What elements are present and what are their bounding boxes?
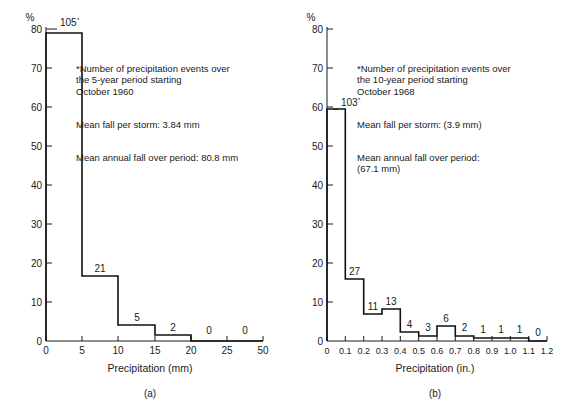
y-tick-label-40: 40 — [31, 180, 43, 191]
y-unit-label-b: % — [307, 12, 316, 23]
x-tick-label-b-5: 0.5 — [412, 346, 425, 356]
x-tick-label-b-7: 0.7 — [449, 346, 462, 356]
x-tick-label-b-12: 1.2 — [541, 346, 554, 356]
y-tick-label-b-50: 50 — [312, 141, 324, 152]
x-ticks-a: 0 5 10 15 20 25 50 — [43, 336, 269, 356]
y-tick-label-30: 30 — [31, 219, 43, 230]
y-tick-label-b-40: 40 — [312, 180, 324, 191]
annotation-mean-storm-a: Mean fall per storm: 3.84 mm — [76, 119, 281, 131]
annotation-mean-annual-a: Mean annual fall over period: 80.8 mm — [76, 152, 281, 164]
panel-label-a: (a) — [144, 388, 156, 399]
annotation-mean-storm-b: Mean fall per storm: (3.9 mm) — [357, 119, 565, 131]
x-tick-label-b-6: 0.6 — [431, 346, 444, 356]
annotation-note-a: *Number of precipitation events over the… — [76, 63, 281, 98]
x-tick-label-b-1: 0.1 — [339, 346, 352, 356]
x-axis-title-b: Precipitation (in.) — [396, 362, 475, 374]
bar-value-label-b-2: 11 — [368, 301, 379, 312]
y-tick-label-10: 10 — [31, 297, 43, 308]
bar-value-label-a-3: 2 — [170, 322, 176, 333]
bar-value-label-b-8: 1 — [480, 324, 486, 335]
bar-value-label-b-7: 2 — [462, 322, 468, 333]
bar-value-label-b-4: 4 — [407, 319, 413, 330]
x-tick-label-a-5: 25 — [221, 345, 233, 356]
bar-value-label-a-4: 0 — [206, 325, 212, 336]
x-tick-label-b-2: 0.2 — [357, 346, 370, 356]
y-tick-label-60: 60 — [31, 102, 43, 113]
bar-value-label-b-9: 1 — [498, 324, 504, 335]
x-tick-label-a-6: 50 — [257, 345, 269, 356]
x-ticks-b: 0 0.1 0.2 0.3 0.4 0.5 0.6 0.7 0.8 0.9 1.… — [324, 336, 553, 356]
annotation-note-b: *Number of precipitation events over the… — [357, 63, 565, 98]
x-axis-title-a: Precipitation (mm) — [107, 362, 192, 374]
bar-value-label-b-6: 6 — [443, 313, 449, 324]
y-tick-label-80: 80 — [31, 24, 43, 35]
y-tick-label-b-30: 30 — [312, 219, 324, 230]
x-tick-label-a-4: 20 — [185, 345, 197, 356]
bar-value-label-b-11: 0 — [535, 327, 541, 338]
y-tick-label-70: 70 — [31, 63, 43, 74]
bar-value-label-b-3: 13 — [385, 296, 397, 307]
x-tick-label-a-2: 10 — [112, 345, 124, 356]
x-tick-label-b-3: 0.3 — [376, 346, 389, 356]
y-ticks-b: 80 70 60 50 40 30 20 10 0 — [312, 24, 333, 347]
bar-value-label-b-10: 1 — [517, 324, 523, 335]
panel-label-b: (b) — [429, 388, 441, 399]
bar-value-label-a-2: 5 — [134, 312, 140, 323]
y-tick-label-b-0: 0 — [317, 336, 323, 347]
x-tick-label-b-10: 1.0 — [504, 346, 517, 356]
annotation-block-b: *Number of precipitation events over the… — [357, 51, 565, 186]
y-tick-label-b-60: 60 — [312, 102, 324, 113]
bar-value-label-a-1: 21 — [94, 263, 106, 274]
histogram-panel-b: % 80 70 60 50 40 30 20 10 0 — [285, 0, 570, 409]
x-tick-label-a-1: 5 — [79, 345, 85, 356]
y-tick-label-b-10: 10 — [312, 297, 324, 308]
x-tick-label-b-9: 0.9 — [486, 346, 499, 356]
y-tick-label-50: 50 — [31, 141, 43, 152]
x-tick-label-b-11: 1.1 — [522, 346, 535, 356]
y-tick-label-20: 20 — [31, 258, 43, 269]
x-tick-label-a-3: 15 — [149, 345, 161, 356]
x-tick-label-b-8: 0.8 — [467, 346, 480, 356]
x-tick-label-b-4: 0.4 — [394, 346, 407, 356]
x-tick-label-b-0: 0 — [324, 346, 329, 356]
bar-value-label-a-5: 0 — [242, 325, 248, 336]
bar-value-label-b-overflow: 103 — [341, 97, 358, 108]
y-ticks-a: 80 70 60 50 40 30 20 10 0 — [31, 24, 52, 347]
y-unit-label-a: % — [26, 12, 35, 23]
bar-value-label-b-1: 27 — [349, 266, 361, 277]
y-tick-label-0: 0 — [36, 336, 42, 347]
overflow-marker-a: * — [77, 17, 80, 23]
y-tick-label-b-80: 80 — [312, 24, 324, 35]
histogram-panel-a: % 80 70 60 50 40 30 20 10 0 — [0, 0, 285, 409]
annotation-block-a: *Number of precipitation events over the… — [76, 51, 281, 175]
y-tick-label-b-20: 20 — [312, 258, 324, 269]
annotation-mean-annual-b: Mean annual fall over period: (67.1 mm) — [357, 152, 565, 175]
bar-value-label-b-5: 3 — [425, 322, 431, 333]
y-tick-label-b-70: 70 — [312, 63, 324, 74]
bar-value-label-a-overflow: 105 — [60, 17, 77, 28]
x-tick-label-a-0: 0 — [43, 345, 49, 356]
